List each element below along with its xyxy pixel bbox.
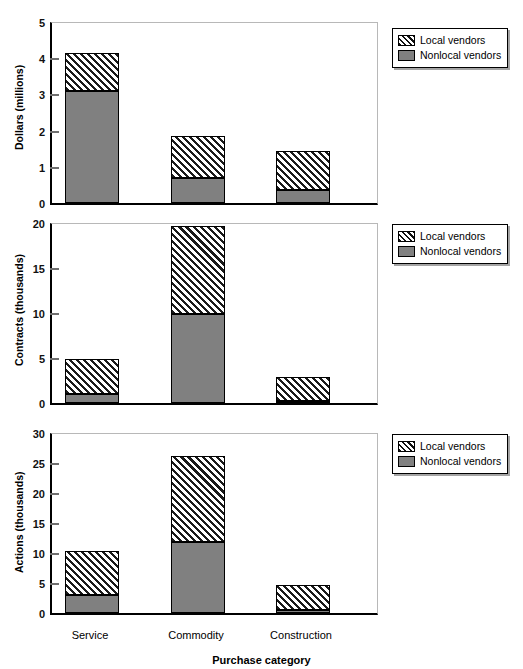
y-axis-tick-mark (50, 583, 59, 585)
legend-swatch-nonlocal-icon (398, 50, 415, 61)
bar-service (65, 551, 119, 613)
legend-swatch-local-icon (398, 35, 415, 46)
x-axis-label-service: Service (72, 630, 109, 641)
plot-area (50, 433, 378, 615)
x-axis-label-commodity: Commodity (168, 630, 224, 641)
chart-panel-actions: 051015202530Actions (thousands)Local ven… (0, 421, 523, 631)
y-axis-tick-mark (50, 268, 59, 270)
legend-label: Local vendors (420, 231, 485, 242)
y-axis-tick-label: 30 (0, 429, 50, 440)
bar-commodity (171, 456, 225, 613)
y-axis-title: Dollars (millions) (14, 65, 25, 150)
y-axis-tick-label: 5 (0, 579, 50, 590)
bar-segment-nonlocal (276, 401, 330, 403)
y-axis-tick-label: 4 (0, 54, 50, 65)
y-axis-tick-label: 3 (0, 90, 50, 101)
y-axis-tick-label: 5 (0, 354, 50, 365)
bar-segment-local (171, 226, 225, 314)
y-axis-tick-label: 20 (0, 219, 50, 230)
bar-segment-nonlocal (171, 178, 225, 203)
bar-segment-local (65, 359, 119, 394)
x-axis-label-construction: Construction (270, 630, 332, 641)
legend-item: Local vendors (398, 33, 501, 48)
bar-segment-nonlocal (276, 190, 330, 203)
bar-segment-local (171, 456, 225, 541)
chart-panel-contracts: 05101520Contracts (thousands)Local vendo… (0, 211, 523, 421)
legend-item: Local vendors (398, 229, 501, 244)
legend-item: Nonlocal vendors (398, 244, 501, 259)
bar-segment-nonlocal (171, 542, 225, 613)
bars-layer (52, 23, 377, 203)
y-axis-tick-label: 5 (0, 18, 50, 29)
bar-construction (276, 377, 330, 403)
bar-segment-nonlocal (65, 91, 119, 203)
y-axis-tick-label: 10 (0, 549, 50, 560)
y-axis-tick-mark (50, 358, 59, 360)
y-axis-tick-mark (50, 523, 59, 525)
y-axis-tick-mark (50, 493, 59, 495)
legend-label: Local vendors (420, 35, 485, 46)
bar-commodity (171, 136, 225, 203)
x-axis-title: Purchase category (0, 655, 523, 666)
bar-segment-local (276, 585, 330, 610)
y-axis-tick-label: 0 (0, 199, 50, 210)
legend-label: Nonlocal vendors (420, 246, 501, 257)
bar-construction (276, 585, 330, 613)
y-axis-tick-label: 15 (0, 519, 50, 530)
legend-swatch-nonlocal-icon (398, 456, 415, 467)
bar-commodity (171, 226, 225, 403)
bars-layer (52, 224, 377, 403)
legend-swatch-local-icon (398, 231, 415, 242)
bars-layer (52, 434, 377, 613)
legend-item: Local vendors (398, 439, 501, 454)
y-axis-tick-mark (50, 94, 59, 96)
y-axis-tick-label: 0 (0, 609, 50, 620)
y-axis-tick-mark (50, 167, 59, 169)
bar-service (65, 53, 119, 203)
legend-label: Local vendors (420, 441, 485, 452)
legend-item: Nonlocal vendors (398, 48, 501, 63)
bar-service (65, 359, 119, 403)
bar-segment-local (65, 551, 119, 595)
y-axis-title: Actions (thousands) (14, 472, 25, 574)
legend-label: Nonlocal vendors (420, 50, 501, 61)
y-axis-tick-mark (50, 131, 59, 133)
y-axis-tick-mark (50, 313, 59, 315)
bar-segment-nonlocal (65, 394, 119, 403)
y-axis-tick-label: 1 (0, 162, 50, 173)
y-axis-tick-mark (50, 463, 59, 465)
y-axis-tick-mark (50, 553, 59, 555)
y-axis-title: Contracts (thousands) (14, 254, 25, 366)
legend-label: Nonlocal vendors (420, 456, 501, 467)
y-axis-tick-label: 20 (0, 489, 50, 500)
bar-segment-nonlocal (171, 314, 225, 403)
legend: Local vendorsNonlocal vendors (392, 28, 508, 68)
legend-item: Nonlocal vendors (398, 454, 501, 469)
y-axis-tick-label: 2 (0, 126, 50, 137)
plot-area (50, 22, 378, 205)
legend: Local vendorsNonlocal vendors (392, 434, 508, 474)
bar-segment-local (276, 377, 330, 401)
plot-area (50, 223, 378, 405)
bar-construction (276, 151, 330, 203)
bar-segment-nonlocal (276, 610, 330, 613)
bar-segment-local (171, 136, 225, 178)
y-axis-tick-label: 15 (0, 264, 50, 275)
legend: Local vendorsNonlocal vendors (392, 224, 508, 264)
y-axis-tick-label: 0 (0, 399, 50, 410)
stacked-bar-chart-figure: 012345Dollars (millions)Local vendorsNon… (0, 0, 523, 669)
y-axis-tick-label: 25 (0, 459, 50, 470)
bar-segment-local (276, 151, 330, 191)
legend-swatch-nonlocal-icon (398, 246, 415, 257)
chart-panel-dollars: 012345Dollars (millions)Local vendorsNon… (0, 0, 523, 215)
y-axis-tick-mark (50, 58, 59, 60)
y-axis-tick-label: 10 (0, 309, 50, 320)
legend-swatch-local-icon (398, 441, 415, 452)
bar-segment-nonlocal (65, 595, 119, 613)
bar-segment-local (65, 53, 119, 91)
